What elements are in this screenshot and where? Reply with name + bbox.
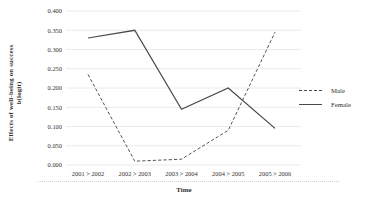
figure-male-female-wellbeing-chart: Effects of well-being on success b(logit… [0, 0, 369, 202]
faint-dotted-rule [38, 181, 339, 182]
legend-item-male: Male [299, 87, 351, 94]
y-tick-label: 0.200 [48, 84, 62, 91]
x-tick-label: 2003 > 2004 [165, 170, 198, 177]
y-tick-label: 0.050 [48, 142, 62, 149]
y-tick-label: 0.300 [48, 46, 62, 53]
y-tick-label: 0.250 [48, 65, 62, 72]
y-tick-label: 0.150 [48, 104, 62, 111]
legend-item-female: Female [299, 101, 351, 108]
male-dashed-line-sample [299, 90, 322, 91]
legend-label-female: Female [331, 101, 351, 108]
y-tick-label: 0.100 [48, 123, 62, 130]
legend: Male Female [299, 87, 351, 108]
x-tick-label: 2005 > 2006 [259, 170, 291, 177]
series-line-female [88, 30, 275, 128]
female-solid-line-sample [299, 104, 322, 105]
x-tick-label: 2001 > 2002 [72, 170, 104, 177]
y-tick-label: 0.000 [48, 161, 62, 168]
x-tick-labels: 2001 > 20022002 > 20032003 > 20042004 > … [72, 170, 291, 177]
legend-label-male: Male [331, 87, 345, 94]
y-tick-label: 0.350 [48, 27, 62, 34]
gridlines [66, 11, 301, 165]
x-tick-label: 2002 > 2003 [119, 170, 151, 177]
y-tick-label: 0.400 [48, 7, 62, 14]
x-axis-title: Time [84, 186, 284, 194]
y-tick-labels: 0.0000.0500.1000.1500.2000.2500.3000.350… [48, 7, 62, 168]
series-line-male [88, 32, 275, 161]
x-tick-label: 2004 > 2005 [212, 170, 244, 177]
